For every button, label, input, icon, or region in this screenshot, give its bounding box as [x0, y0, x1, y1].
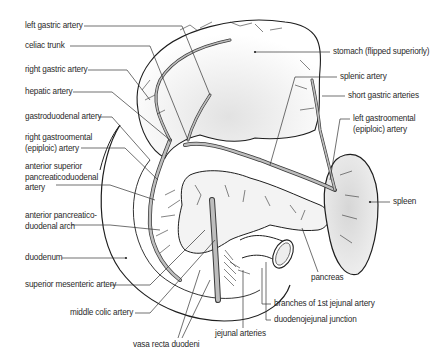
label-pancreas: pancreas: [311, 273, 343, 284]
label-branches-1st-jejunal-artery: branches of 1st jejunal artery: [274, 299, 375, 310]
label-celiac-trunk: celiac trunk: [25, 41, 65, 52]
label-spleen: spleen: [393, 197, 416, 208]
label-short-gastric-arteries: short gastric arteries: [348, 91, 419, 102]
jejunum-outline: [240, 236, 297, 272]
label-left-gastric-artery: left gastric artery: [25, 21, 83, 32]
label-vasa-recta-duodeni: vasa recta duodeni: [133, 340, 200, 351]
label-anterior-superior-pancreaticoduodenal-artery: anterior superior pancreaticoduodenal ar…: [25, 162, 98, 194]
label-superior-mesenteric-artery: superior mesenteric artery: [25, 280, 116, 291]
label-right-gastroomental-artery: right gastroomental (epiploic) artery: [25, 133, 92, 154]
label-hepatic-artery: hepatic artery: [25, 87, 73, 98]
label-duodenum: duodenum: [25, 253, 63, 264]
label-jejunal-arteries: jejunal arteries: [215, 329, 266, 340]
spleen-outline: [324, 154, 378, 274]
label-anterior-pancreaticoduodenal-arch: anterior pancreatico- duodenal arch: [25, 211, 97, 232]
label-duodenojejunal-junction: duodenojejunal junction: [274, 315, 357, 326]
label-gastroduodenal-artery: gastroduodenal artery: [25, 112, 102, 123]
label-right-gastric-artery: right gastric artery: [25, 65, 88, 76]
label-splenic-artery: splenic artery: [340, 72, 387, 83]
label-stomach: stomach (flipped superiorly): [333, 47, 429, 58]
label-middle-colic-artery: middle colic artery: [70, 308, 133, 319]
label-left-gastroomental-artery: left gastroomental (epiploic) artery: [353, 114, 415, 135]
